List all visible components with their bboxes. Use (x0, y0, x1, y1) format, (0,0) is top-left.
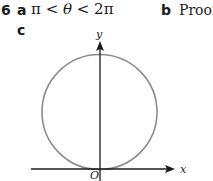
circle-diagram: x y O (0, 0, 213, 181)
y-axis-label: y (95, 28, 103, 41)
origin-label: O (90, 169, 99, 181)
x-axis-label: x (180, 163, 187, 176)
